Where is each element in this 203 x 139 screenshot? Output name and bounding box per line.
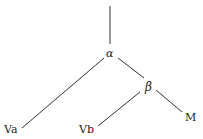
node-beta: β (144, 80, 152, 94)
edge-beta-vb (98, 92, 140, 126)
node-vb: Vb (78, 123, 94, 136)
tree-diagram: α β Va Vb M (0, 0, 203, 139)
node-va: Va (3, 123, 18, 136)
node-alpha: α (106, 47, 114, 60)
edge-beta-m (156, 90, 182, 112)
edge-alpha-beta (118, 58, 144, 78)
node-m: M (185, 111, 196, 124)
edge-alpha-va (22, 58, 104, 128)
